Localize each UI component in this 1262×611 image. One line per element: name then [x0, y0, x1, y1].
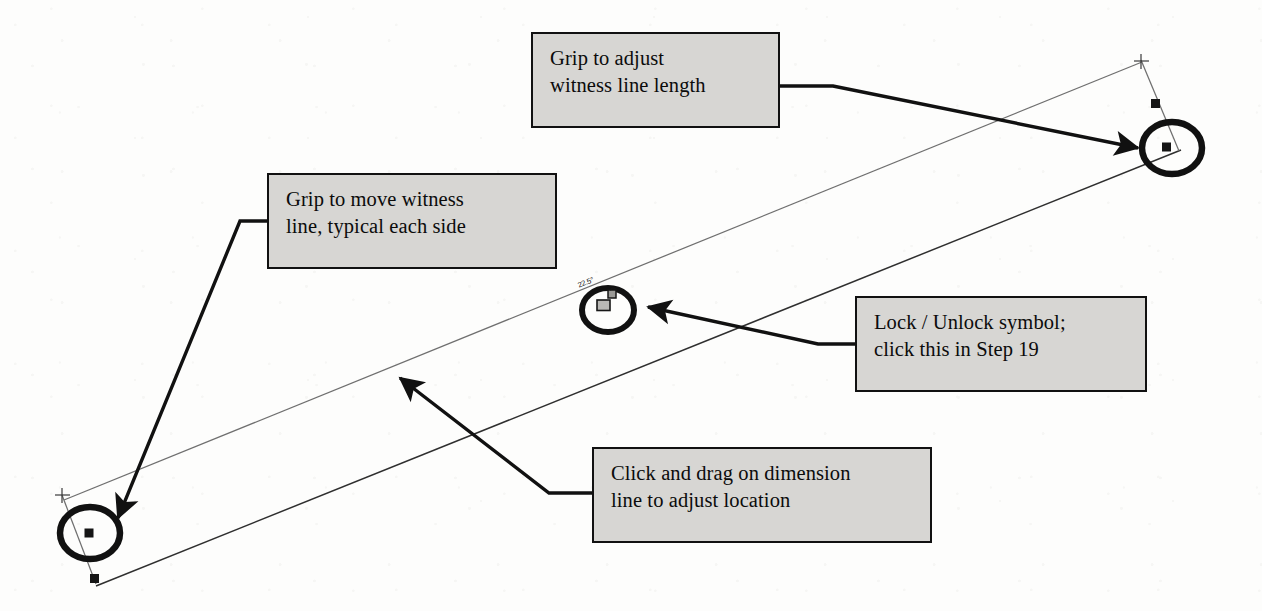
- callout-line-2: click this in Step 19: [874, 336, 1145, 363]
- callout-line-1: Grip to move witness: [286, 186, 555, 213]
- leader-line-move-witness: [118, 221, 267, 518]
- callout-line-2: witness line length: [550, 72, 778, 99]
- leader-line-dimension-drag: [400, 378, 592, 493]
- callout-line-1: Lock / Unlock symbol;: [874, 309, 1145, 336]
- callout-line-1: Grip to adjust: [550, 45, 778, 72]
- extension-origin-cross-left-icon: [55, 488, 70, 503]
- square-grip-witness-left[interactable]: [90, 574, 99, 583]
- callout-lock-unlock-symbol[interactable]: Lock / Unlock symbol; click this in Step…: [855, 296, 1147, 392]
- square-grip-dimension-left[interactable]: [85, 529, 94, 538]
- extension-origin-cross-right-icon: [1134, 54, 1149, 69]
- leader-line-lock-unlock: [648, 307, 855, 344]
- callout-click-drag-dimension-line[interactable]: Click and drag on dimension line to adju…: [592, 447, 932, 543]
- leader-line-witness-length: [779, 86, 1138, 148]
- callout-line-2: line to adjust location: [611, 487, 930, 514]
- diagram-canvas: 22.5° Grip to adjust witness line length…: [0, 0, 1262, 611]
- square-grip-witness-right[interactable]: [1151, 99, 1160, 108]
- callout-grip-move-witness-line[interactable]: Grip to move witness line, typical each …: [267, 173, 557, 269]
- callout-grip-adjust-witness-length[interactable]: Grip to adjust witness line length: [531, 32, 780, 128]
- callout-line-1: Click and drag on dimension: [611, 460, 930, 487]
- grip-highlight-ellipse-right: [1142, 122, 1202, 174]
- square-grip-dimension-right[interactable]: [1162, 143, 1171, 152]
- callout-line-2: line, typical each side: [286, 213, 555, 240]
